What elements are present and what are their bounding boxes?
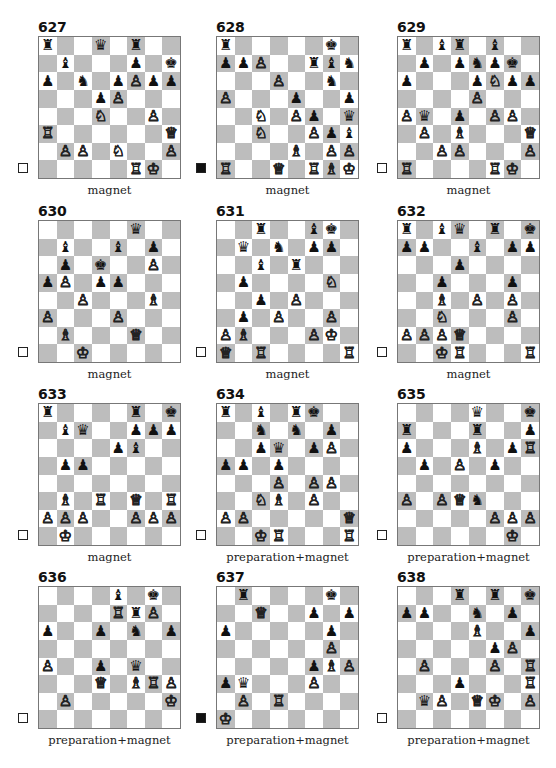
white-pawn-icon: ♙ <box>325 310 338 325</box>
square-f3 <box>486 309 504 327</box>
chess-diagram-635: 635 ♛♚♜♜♟♟♗♟♖♟♙♟♙♙♕♞♙♙♙♔ preparation+mag… <box>397 403 556 588</box>
square-g3 <box>145 492 163 510</box>
white-bishop-icon: ♗ <box>59 493 72 508</box>
square-e7: ♝ <box>469 239 487 257</box>
square-f8: ♚ <box>305 404 323 422</box>
square-a7 <box>39 605 57 623</box>
white-pawn-icon: ♙ <box>147 511 160 526</box>
square-h1: ♖ <box>340 344 358 362</box>
white-rook-icon: ♖ <box>307 162 320 177</box>
square-b4 <box>235 292 253 310</box>
square-h6 <box>340 72 358 90</box>
black-pawn-icon: ♟ <box>112 275 125 290</box>
square-b2 <box>235 143 253 161</box>
black-pawn-icon: ♟ <box>237 56 250 71</box>
square-d3 <box>92 125 110 143</box>
white-pawn-icon: ♙ <box>112 91 125 106</box>
square-c3: ♘ <box>433 309 451 327</box>
square-e5: ♟ <box>288 90 306 108</box>
square-d4: ♙ <box>270 475 288 493</box>
square-a3: ♙ <box>398 492 416 510</box>
square-f2 <box>486 143 504 161</box>
white-king-icon: ♔ <box>342 162 355 177</box>
square-e4 <box>469 658 487 676</box>
square-c2 <box>433 510 451 528</box>
white-bishop-icon: ♗ <box>59 328 72 343</box>
square-c3 <box>74 492 92 510</box>
square-c8 <box>252 37 270 55</box>
square-g1 <box>145 710 163 728</box>
square-h5 <box>521 640 539 658</box>
square-a7 <box>398 55 416 73</box>
square-f1 <box>305 527 323 545</box>
square-g7: ♟ <box>504 239 522 257</box>
square-a2 <box>39 693 57 711</box>
square-e2: ♘ <box>110 143 128 161</box>
square-a1: ♔ <box>217 710 235 728</box>
square-b5 <box>416 640 434 658</box>
black-rook-icon: ♜ <box>400 222 413 237</box>
square-h1 <box>162 160 180 178</box>
square-h1 <box>521 710 539 728</box>
square-h4: ♙ <box>340 658 358 676</box>
chess-diagram-634: 634 ♜♝♜♚♞♞♟♟♛♟♙♟♟♟♙♙♙♘♗♙♙♙♕♔♖♖ preparati… <box>216 403 396 588</box>
square-b7 <box>416 422 434 440</box>
square-c1: ♔ <box>433 344 451 362</box>
white-to-move-indicator <box>18 163 28 173</box>
square-f4 <box>127 108 145 126</box>
square-f4: ♙ <box>486 658 504 676</box>
square-d1 <box>451 527 469 545</box>
diagram-caption: magnet <box>397 183 540 197</box>
square-f4 <box>486 475 504 493</box>
square-a3: ♖ <box>39 125 57 143</box>
square-a3 <box>217 125 235 143</box>
square-b2: ♙ <box>416 327 434 345</box>
black-bishop-icon: ♝ <box>254 405 267 420</box>
square-b4 <box>235 108 253 126</box>
square-a5 <box>39 90 57 108</box>
square-g8 <box>145 37 163 55</box>
square-d1 <box>92 710 110 728</box>
square-d4 <box>451 292 469 310</box>
white-knight-icon: ♘ <box>254 126 267 141</box>
white-rook-icon: ♖ <box>94 493 107 508</box>
square-c7: ♛ <box>74 422 92 440</box>
black-queen-icon: ♛ <box>94 38 107 53</box>
white-pawn-icon: ♙ <box>400 493 413 508</box>
square-e4: ♙ <box>288 108 306 126</box>
square-d2 <box>270 143 288 161</box>
square-h1: ♔ <box>340 160 358 178</box>
square-h3: ♖ <box>162 492 180 510</box>
square-b3 <box>235 492 253 510</box>
square-d5: ♟ <box>92 274 110 292</box>
black-knight-icon: ♞ <box>471 493 484 508</box>
square-c5 <box>252 457 270 475</box>
square-f1 <box>305 710 323 728</box>
black-bishop-icon: ♝ <box>129 441 142 456</box>
square-g7 <box>323 605 341 623</box>
diagram-number: 637 <box>216 569 244 585</box>
square-d5 <box>270 274 288 292</box>
white-king-icon: ♔ <box>219 712 232 727</box>
square-f3: ♗ <box>127 675 145 693</box>
square-f2 <box>127 693 145 711</box>
square-c8: ♝ <box>433 221 451 239</box>
square-h2 <box>340 693 358 711</box>
square-e1 <box>288 710 306 728</box>
square-a6: ♟ <box>398 439 416 457</box>
square-g2 <box>504 327 522 345</box>
square-c2 <box>252 693 270 711</box>
black-queen-icon: ♛ <box>76 423 89 438</box>
black-pawn-icon: ♟ <box>488 56 501 71</box>
square-b7: ♟ <box>235 55 253 73</box>
square-d6 <box>92 439 110 457</box>
square-b7 <box>235 605 253 623</box>
white-pawn-icon: ♙ <box>435 328 448 343</box>
square-f2: ♙ <box>486 510 504 528</box>
square-a6 <box>217 256 235 274</box>
white-bishop-icon: ♗ <box>435 293 448 308</box>
square-d8 <box>92 404 110 422</box>
square-e3 <box>110 675 128 693</box>
black-rook-icon: ♜ <box>41 405 54 420</box>
black-pawn-icon: ♟ <box>506 74 519 89</box>
